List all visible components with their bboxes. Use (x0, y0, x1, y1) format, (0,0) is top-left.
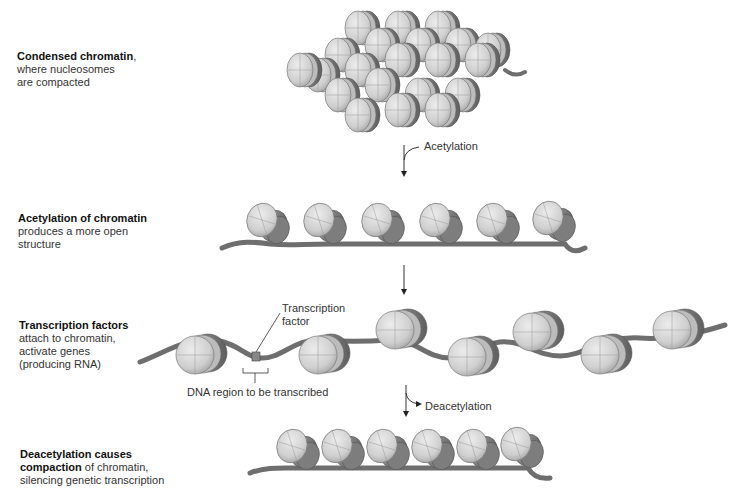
deacetylation-arrow (403, 385, 422, 417)
condensed-chromatin-graphic (287, 11, 525, 132)
acetylation-arrow (401, 145, 419, 177)
acetylated-chromatin-graphic (222, 197, 585, 251)
open-chromatin-graphic (140, 309, 725, 383)
chromatin-diagram (0, 0, 736, 500)
deacetylated-chromatin-graphic (250, 423, 550, 478)
down-arrow (401, 265, 407, 295)
transcription-factor-box (252, 352, 260, 361)
